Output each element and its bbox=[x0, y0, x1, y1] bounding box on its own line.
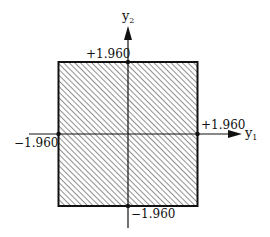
point-right bbox=[195, 132, 199, 136]
y2-axis-arrow-icon bbox=[124, 26, 132, 40]
label-right-value: +1.960 bbox=[201, 118, 245, 132]
label-left-value: −1.960 bbox=[14, 136, 58, 150]
y1-axis-label: y1 bbox=[244, 125, 257, 142]
label-top-value: +1.960 bbox=[86, 47, 130, 61]
acceptance-region-diagram: y2 y1 +1.960 +1.960 −1.960 −1.960 bbox=[0, 0, 270, 237]
y2-axis-label: y2 bbox=[121, 8, 134, 25]
label-bottom-value: −1.960 bbox=[131, 207, 175, 221]
point-bottom bbox=[126, 204, 130, 208]
